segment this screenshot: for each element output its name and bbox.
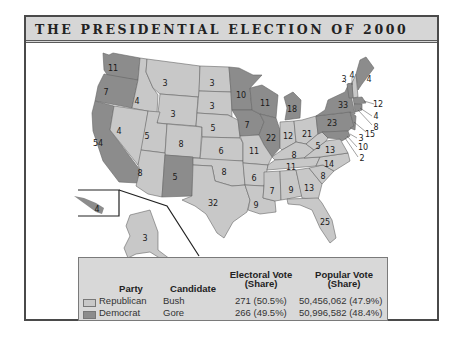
state-label-oh: 21 <box>302 130 312 139</box>
state-label-mi: 18 <box>287 105 297 114</box>
state-label-or: 7 <box>103 88 108 97</box>
state-me <box>356 57 374 90</box>
state-label-ky: 8 <box>291 151 296 160</box>
state-ak <box>124 210 174 262</box>
state-label-co: 8 <box>178 140 183 149</box>
state-label-dc: 2 <box>359 154 364 163</box>
state-label-ne: 5 <box>210 124 215 133</box>
state-label-wi: 11 <box>260 99 270 108</box>
row-republican-candidate: Bush <box>163 295 185 306</box>
state-label-mo: 11 <box>249 147 259 156</box>
row-republican-party: Republican <box>99 295 147 306</box>
republican-swatch <box>83 299 96 307</box>
state-ne <box>196 113 240 138</box>
state-label-nm: 5 <box>172 173 177 182</box>
legend-table: Party Candidate Electoral Vote (Share) P… <box>78 257 388 321</box>
row-republican-popular: 50,456,062 (47.9%) <box>299 295 382 306</box>
state-label-wv: 5 <box>315 142 320 151</box>
state-label-nh: 4 <box>349 71 354 80</box>
state-label-hi: 4 <box>94 205 99 214</box>
header-party: Party <box>101 284 161 294</box>
state-label-ks: 6 <box>218 147 223 156</box>
state-ct <box>354 104 362 112</box>
state-label-az: 8 <box>137 169 142 178</box>
row-democrat-electoral: 266 (49.5%) <box>235 307 287 318</box>
state-label-ar: 6 <box>251 174 256 183</box>
state-label-nd: 3 <box>209 79 214 88</box>
header-electoral-l2: (Share) <box>221 279 301 289</box>
state-label-il: 22 <box>266 134 276 143</box>
state-label-ga: 13 <box>304 184 314 193</box>
democrat-swatch <box>83 311 96 319</box>
state-label-id: 4 <box>134 97 139 106</box>
state-label-ut: 5 <box>144 132 149 141</box>
state-label-vt: 3 <box>341 75 346 84</box>
state-label-nj: 15 <box>365 130 375 139</box>
state-label-ca: 54 <box>93 139 103 148</box>
state-label-nc: 14 <box>324 160 334 169</box>
state-label-me: 4 <box>366 75 371 84</box>
row-democrat-popular: 50,996,582 (48.4%) <box>299 307 382 318</box>
state-label-ok: 8 <box>221 168 226 177</box>
state-label-in: 12 <box>283 132 293 141</box>
state-label-pa: 23 <box>327 119 337 128</box>
header-popular-l2: (Share) <box>301 279 387 289</box>
state-label-fl: 25 <box>320 218 330 227</box>
state-label-tn: 11 <box>286 163 296 172</box>
state-label-sd: 3 <box>209 102 214 111</box>
state-label-nv: 4 <box>116 127 121 136</box>
row-republican-electoral: 271 (50.5%) <box>235 295 287 306</box>
state-label-wy: 3 <box>170 110 175 119</box>
state-label-ny: 33 <box>338 101 348 110</box>
state-label-wa: 11 <box>108 64 118 73</box>
state-label-va: 13 <box>325 146 335 155</box>
state-label-de: 3 <box>358 134 363 143</box>
row-democrat-party: Democrat <box>99 307 140 318</box>
state-label-ia: 7 <box>244 121 249 130</box>
state-label-ma: 12 <box>373 100 383 109</box>
state-ma <box>353 97 366 104</box>
state-label-al: 9 <box>288 186 293 195</box>
row-democrat-candidate: Gore <box>163 307 184 318</box>
state-label-md: 10 <box>358 143 368 152</box>
state-label-sc: 8 <box>320 172 325 181</box>
state-label-ri: 4 <box>373 112 378 121</box>
state-label-mt: 3 <box>162 79 167 88</box>
state-label-tx: 32 <box>208 199 218 208</box>
header-candidate: Candidate <box>163 284 223 294</box>
state-nd <box>199 66 231 92</box>
state-label-la: 9 <box>253 201 258 210</box>
state-wy <box>157 94 198 126</box>
state-label-ms: 7 <box>269 187 274 196</box>
state-label-ak: 3 <box>142 234 147 243</box>
state-label-mn: 10 <box>236 91 246 100</box>
